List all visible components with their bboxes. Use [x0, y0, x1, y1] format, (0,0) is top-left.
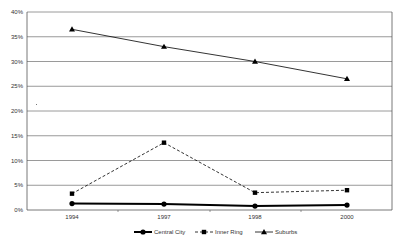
series-line — [72, 204, 347, 206]
series-inner-ring — [70, 140, 349, 195]
line-chart: 0%5%10%15%20%25%30%35%40% 19941997199820… — [0, 0, 400, 241]
circle-marker-icon — [140, 229, 145, 234]
legend-item: Inner Ring — [195, 229, 243, 235]
triangle-marker-icon — [69, 26, 75, 31]
circle-marker-icon — [344, 202, 349, 207]
y-tick-label: 30% — [11, 59, 24, 65]
y-tick-label: 20% — [11, 108, 24, 114]
x-axis-ticks: 1994199719982000 — [65, 210, 354, 220]
gridlines — [27, 12, 392, 210]
x-tick-label: 1994 — [65, 214, 79, 220]
series-suburbs — [69, 26, 350, 81]
legend-label: Suburbs — [275, 229, 297, 235]
y-tick-label: 40% — [11, 9, 24, 15]
y-tick-label: 10% — [11, 158, 24, 164]
legend-item: Central City — [134, 229, 185, 235]
square-marker-icon — [162, 140, 166, 144]
legend-item: Suburbs — [255, 229, 297, 235]
stray-dot — [36, 104, 37, 105]
y-tick-label: 35% — [11, 34, 24, 40]
x-tick-label: 2000 — [340, 214, 354, 220]
x-tick-label: 1997 — [157, 214, 171, 220]
series-line — [72, 143, 347, 194]
circle-marker-icon — [252, 203, 257, 208]
circle-marker-icon — [69, 201, 74, 206]
circle-marker-icon — [161, 201, 166, 206]
square-marker-icon — [345, 188, 349, 192]
y-tick-label: 15% — [11, 133, 24, 139]
y-tick-label: 5% — [14, 182, 23, 188]
series-lines — [69, 26, 350, 208]
legend-label: Central City — [154, 229, 185, 235]
legend-label: Inner Ring — [215, 229, 243, 235]
square-marker-icon — [202, 230, 206, 234]
square-marker-icon — [70, 191, 74, 195]
y-tick-label: 25% — [11, 83, 24, 89]
x-tick-label: 1998 — [248, 214, 262, 220]
square-marker-icon — [253, 190, 257, 194]
y-tick-label: 0% — [14, 207, 23, 213]
legend: Central CityInner RingSuburbs — [134, 229, 297, 235]
series-central-city — [69, 201, 349, 209]
y-axis-ticks: 0%5%10%15%20%25%30%35%40% — [11, 9, 24, 213]
